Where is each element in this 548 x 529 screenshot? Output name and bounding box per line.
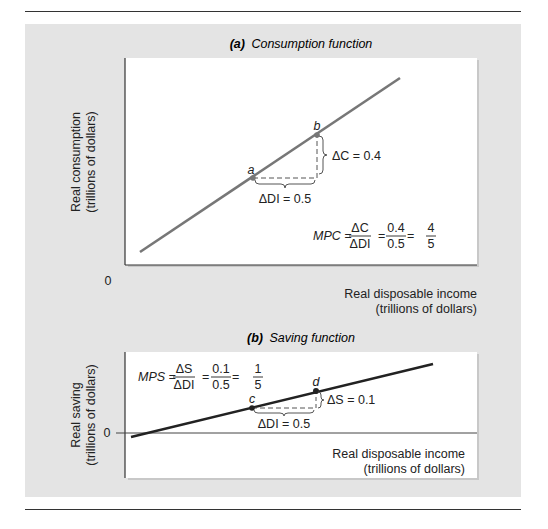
svg-text:ΔDI: ΔDI [350, 237, 371, 251]
figure-svg: (a) Consumption function 0 Real consumpt… [0, 0, 548, 529]
svg-text:4: 4 [428, 221, 435, 235]
svg-text:MPS =: MPS = [138, 370, 176, 384]
svg-text:Real consumption: Real consumption [69, 112, 83, 212]
svg-text:0.1: 0.1 [212, 362, 229, 376]
chart-b-title: (b) Saving function [247, 331, 355, 345]
point-b [314, 132, 320, 138]
svg-text:1: 1 [255, 362, 262, 376]
delta-di-label-b: ΔDI = 0.5 [258, 417, 311, 431]
svg-text:ΔC: ΔC [351, 221, 368, 235]
point-c [249, 405, 255, 411]
point-d-label: d [313, 375, 321, 389]
point-b-label: b [314, 119, 321, 133]
point-c-label: c [249, 392, 256, 406]
delta-s-label: ΔS = 0.1 [327, 393, 375, 407]
chart-a-title: (a) Consumption function [230, 37, 373, 51]
zero-label-b: 0 [104, 426, 111, 440]
point-a-label: a [248, 163, 255, 177]
origin-label-a: 0 [105, 274, 112, 288]
svg-text:=: = [378, 229, 385, 243]
delta-c-label: ΔC = 0.4 [332, 149, 381, 163]
delta-di-label-a: ΔDI = 0.5 [259, 192, 312, 206]
svg-text:=: = [202, 370, 209, 384]
svg-text:MPC =: MPC = [313, 229, 352, 243]
svg-text:=: = [232, 370, 239, 384]
svg-text:(trillions of dollars): (trillions of dollars) [84, 111, 98, 212]
svg-text:5: 5 [428, 237, 435, 251]
svg-text:Real saving: Real saving [69, 382, 83, 447]
svg-text:5: 5 [255, 378, 262, 392]
x-axis-label-a-line1: Real disposable income [344, 287, 477, 301]
svg-text:=: = [407, 229, 414, 243]
consumption-chart: (a) Consumption function 0 Real consumpt… [69, 37, 479, 316]
svg-text:ΔS: ΔS [176, 362, 193, 376]
plot-a-area [125, 58, 477, 265]
svg-text:0.5: 0.5 [212, 378, 229, 392]
svg-text:ΔDI: ΔDI [174, 378, 195, 392]
saving-chart: (b) Saving function 0 Real saving (trill… [69, 331, 479, 480]
x-axis-label-a-line2: (trillions of dollars) [376, 302, 477, 316]
x-axis-label-b-line1: Real disposable income [332, 447, 465, 461]
y-axis-label-a: Real consumption (trillions of dollars) [69, 111, 98, 212]
svg-text:0.4: 0.4 [387, 221, 404, 235]
svg-text:0.5: 0.5 [387, 237, 404, 251]
y-axis-label-b: Real saving (trillions of dollars) [69, 364, 98, 465]
x-axis-label-b-line2: (trillions of dollars) [364, 462, 465, 476]
svg-text:(trillions of dollars): (trillions of dollars) [84, 364, 98, 465]
